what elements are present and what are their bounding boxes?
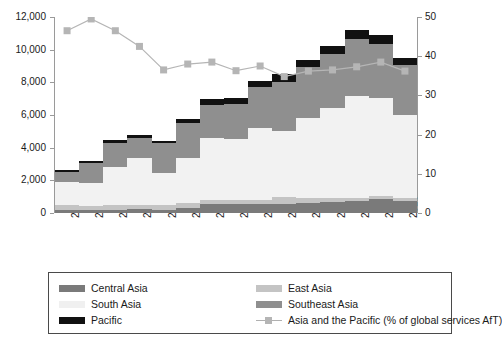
bar-segment-south: [248, 128, 272, 200]
right-axis-tick-label: 10: [425, 169, 436, 179]
swatch-pacific: [59, 317, 85, 324]
left-axis-tick: [50, 180, 54, 181]
bar-segment-south: [345, 96, 369, 198]
bar-segment-central: [248, 204, 272, 213]
bar-column-2014: [345, 17, 369, 213]
bar-stack: [248, 81, 272, 213]
bar-column-2013: [320, 17, 344, 213]
bar-stack: [369, 35, 393, 213]
left-axis-tick: [50, 213, 54, 214]
bar-column-2005: [127, 17, 151, 213]
bar-segment-central: [320, 202, 344, 213]
legend-item-share-line: Asia and the Pacific (% of global servic…: [234, 314, 502, 326]
bar-segment-south: [272, 131, 296, 197]
bar-segment-southeast: [103, 143, 127, 167]
swatch-southeast-asia: [256, 301, 282, 308]
bar-column-2007: [176, 17, 200, 213]
bar-segment-southeast: [393, 65, 417, 114]
bar-segment-south: [152, 173, 176, 205]
bar-segment-central: [393, 201, 417, 213]
bar-stack: [320, 46, 344, 213]
bar-column-2008: [200, 17, 224, 213]
bar-segment-east: [272, 197, 296, 204]
bar-segment-central: [296, 203, 320, 213]
legend-label-southeast-asia: Southeast Asia: [288, 298, 358, 310]
bar-segment-south: [127, 158, 151, 205]
left-axis-tick: [50, 17, 54, 18]
right-axis-tick: [418, 174, 422, 175]
legend-label-share-line: Asia and the Pacific (% of global servic…: [288, 314, 502, 326]
bar-stack: [200, 99, 224, 213]
right-axis-tick-label: 0: [425, 208, 431, 218]
bar-segment-central: [272, 204, 296, 213]
right-axis-spine: [417, 17, 418, 213]
bar-segment-south: [320, 108, 344, 198]
bar-segment-southeast: [127, 138, 151, 157]
bar-column-2004: [103, 17, 127, 213]
bar-segment-southeast: [272, 82, 296, 130]
right-axis-tick: [418, 17, 422, 18]
bar-segment-pacific: [296, 60, 320, 67]
legend-label-central-asia: Central Asia: [91, 282, 148, 294]
bar-segment-central: [200, 204, 224, 213]
left-axis-tick-label: 6,000: [0, 110, 46, 120]
legend-item-east-asia: East Asia: [234, 282, 502, 294]
left-axis-tick: [50, 148, 54, 149]
bar-column-2011: [272, 17, 296, 213]
legend-item-south-asia: South Asia: [59, 298, 234, 310]
right-axis-tick-label: 20: [425, 130, 436, 140]
right-axis-tick: [418, 95, 422, 96]
bar-segment-pacific: [320, 46, 344, 54]
swatch-central-asia: [59, 285, 85, 292]
bar-column-2015: [369, 17, 393, 213]
bar-stack: [296, 60, 320, 214]
bar-segment-central: [103, 210, 127, 213]
legend-label-pacific: Pacific: [91, 314, 122, 326]
bar-segment-south: [79, 183, 103, 206]
bar-segment-south: [393, 115, 417, 199]
bar-segment-southeast: [369, 44, 393, 97]
bar-segment-pacific: [248, 81, 272, 88]
bar-segment-southeast: [320, 54, 344, 108]
left-axis-tick-label: 0: [0, 208, 46, 218]
bar-segment-southeast: [296, 67, 320, 118]
left-axis-tick: [50, 50, 54, 51]
bar-segment-southeast: [224, 104, 248, 139]
bar-segment-pacific: [369, 35, 393, 44]
bar-stack: [345, 30, 369, 213]
bar-stack: [393, 58, 417, 213]
bar-column-2012: [296, 17, 320, 213]
bar-segment-southeast: [345, 39, 369, 96]
legend-item-central-asia: Central Asia: [59, 282, 234, 294]
bar-segment-central: [127, 209, 151, 213]
right-axis-tick: [418, 135, 422, 136]
bar-column-2016: [393, 17, 417, 213]
bar-column-2009: [224, 17, 248, 213]
bar-segment-southeast: [200, 105, 224, 138]
bar-stack: [79, 161, 103, 213]
bar-column-2006: [152, 17, 176, 213]
bar-segment-central: [79, 210, 103, 213]
bar-segment-central: [345, 201, 369, 213]
legend-label-east-asia: East Asia: [288, 282, 332, 294]
bar-segment-central: [176, 208, 200, 213]
bar-stack: [152, 141, 176, 213]
bar-column-2010: [248, 17, 272, 213]
bar-segment-south: [296, 118, 320, 198]
legend-item-southeast-asia: Southeast Asia: [234, 298, 502, 310]
swatch-south-asia: [59, 301, 85, 308]
bar-segment-south: [103, 167, 127, 205]
right-axis-tick-label: 30: [425, 90, 436, 100]
bar-segment-southeast: [152, 143, 176, 173]
chart-legend: Central Asia East Asia South Asia Southe…: [48, 272, 452, 334]
right-axis-tick-label: 50: [425, 12, 436, 22]
bar-segment-central: [152, 210, 176, 213]
left-axis-tick-label: 12,000: [0, 12, 46, 22]
bar-segment-pacific: [345, 30, 369, 39]
left-axis-tick-label: 4,000: [0, 143, 46, 153]
left-axis-tick-label: 10,000: [0, 45, 46, 55]
bar-column-2002: [55, 17, 79, 213]
plot-area: [55, 17, 417, 213]
bar-segment-central: [369, 199, 393, 213]
